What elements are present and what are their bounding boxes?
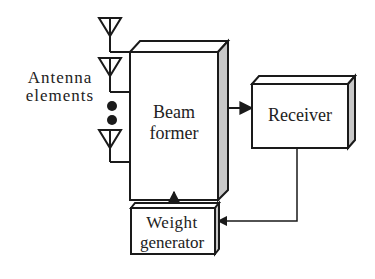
- antenna-ellipsis-dots: [107, 101, 117, 125]
- antenna-element-3: [99, 130, 130, 162]
- beam-former-label-line1: Beam: [153, 102, 195, 122]
- receiver-label: Receiver: [268, 105, 332, 125]
- weight-generator-label-line1: Weight: [146, 213, 198, 232]
- weight-generator-label-line2: generator: [140, 233, 205, 252]
- arrow-receiver-to-weight-generator: [218, 148, 297, 221]
- antenna-label-line2: elements: [26, 86, 94, 105]
- antenna-element-2: [99, 58, 130, 92]
- beam-former-label-line2: former: [150, 123, 199, 143]
- weight-generator-box: Weight generator: [131, 203, 219, 254]
- beam-former-box: Beam former: [130, 41, 228, 200]
- antenna-element-1: [99, 18, 130, 52]
- antenna-label-line1: Antenna: [28, 68, 93, 87]
- receiver-box: Receiver: [252, 76, 355, 148]
- beamforming-diagram: Antenna elements Beam former Receiver We…: [0, 0, 375, 279]
